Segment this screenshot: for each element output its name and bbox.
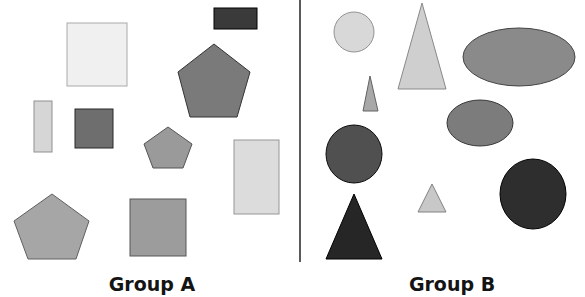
light-circle bbox=[334, 12, 374, 52]
thin-light-rectangle bbox=[34, 101, 52, 152]
group-a-label: Group A bbox=[109, 273, 196, 295]
gray-pentagon-bottom-left bbox=[14, 194, 89, 259]
dark-gray-circle bbox=[326, 125, 382, 183]
shape-groups-diagram: Group A Group B bbox=[0, 0, 585, 297]
gray-ellipse-medium bbox=[447, 100, 513, 146]
group-b-label: Group B bbox=[409, 273, 495, 295]
gray-pentagon-small bbox=[144, 127, 192, 168]
group-a bbox=[14, 8, 279, 259]
small-light-triangle bbox=[418, 184, 446, 212]
dark-rectangle bbox=[214, 8, 257, 29]
light-tall-rectangle bbox=[234, 140, 279, 214]
gray-ellipse-large bbox=[463, 28, 575, 86]
gray-square-bottom bbox=[130, 199, 186, 256]
group-b bbox=[326, 3, 575, 259]
dark-gray-pentagon-large bbox=[178, 44, 250, 117]
thin-gray-triangle bbox=[363, 76, 378, 111]
dark-triangle bbox=[326, 194, 382, 259]
dark-ellipse bbox=[500, 159, 566, 229]
dark-gray-square-small bbox=[75, 109, 113, 148]
light-tall-triangle bbox=[398, 3, 446, 89]
light-square-large bbox=[67, 23, 127, 86]
